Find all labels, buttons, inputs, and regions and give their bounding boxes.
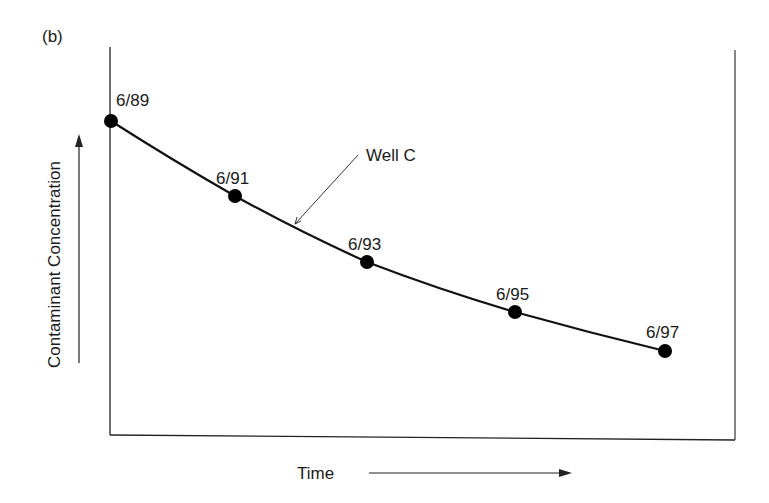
chart-figure: (b) 6/89 6/91 6/93 6/95 6/97 Well C Cont… (0, 0, 769, 503)
x-axis-label: Time (297, 464, 334, 483)
data-point-6-97 (658, 344, 672, 358)
series-annotation-label: Well C (366, 146, 416, 165)
point-label-6-91: 6/91 (216, 169, 249, 188)
point-label-6-89: 6/89 (116, 91, 149, 110)
point-label-6-93: 6/93 (348, 235, 381, 254)
right-arrow-icon (559, 469, 572, 477)
point-label-6-95: 6/95 (496, 285, 529, 304)
panel-label: (b) (42, 27, 63, 46)
annotation-leader-line (295, 155, 358, 224)
data-point-6-89 (104, 114, 118, 128)
data-point-6-91 (228, 189, 242, 203)
data-point-6-93 (360, 255, 374, 269)
data-point-6-95 (508, 305, 522, 319)
y-axis-label: Contaminant Concentration (45, 161, 64, 368)
point-label-6-97: 6/97 (646, 323, 679, 342)
x-axis-line (110, 435, 735, 440)
up-arrow-icon (75, 134, 83, 147)
